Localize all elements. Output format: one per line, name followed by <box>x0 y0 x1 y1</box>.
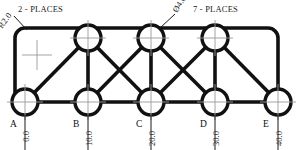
note-left-places: 2 - PLACES <box>18 4 63 14</box>
node-label-e: E <box>263 119 269 129</box>
node-label-b: B <box>73 119 79 129</box>
note-right-places: 7 - PLACES <box>193 4 238 14</box>
node-label-d: D <box>200 119 207 129</box>
node-label-c: C <box>136 119 142 129</box>
dimension-value-c: 20.0 <box>147 131 157 146</box>
dimension-value-b: 10.0 <box>84 131 94 146</box>
engineering-drawing-canvas: 2 - PLACES 7 - PLACES R2.0 Ø4.0 A B C D … <box>0 0 303 150</box>
dimension-value-a: 0.0 <box>21 131 31 142</box>
leader-diameter <box>160 14 175 28</box>
node-label-a: A <box>10 119 17 129</box>
dimension-value-e: 40.0 <box>274 131 284 146</box>
diameter-callout: Ø4.0 <box>170 0 188 14</box>
truss-diagram-svg: 2 - PLACES 7 - PLACES R2.0 Ø4.0 A B C D … <box>0 0 303 150</box>
radius-callout: R2.0 <box>0 10 14 30</box>
dimension-value-d: 30.0 <box>211 131 221 146</box>
